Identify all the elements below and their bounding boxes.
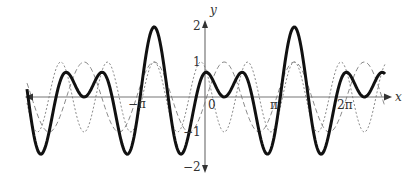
sum-curve <box>27 27 385 154</box>
y-tick-1: 1 <box>193 56 201 68</box>
y-tick-neg2: −2 <box>183 161 201 173</box>
x-axis-label: x <box>395 91 402 103</box>
x-tick-neg-pi: −π <box>128 98 146 110</box>
y-tick-neg1: −1 <box>183 126 201 138</box>
x-axis-arrow-icon <box>384 94 392 101</box>
x-tick-pi: π <box>270 99 278 111</box>
chart-plot-area <box>0 0 411 183</box>
y-axis-down-arrow-icon <box>202 165 208 173</box>
y-tick-2: 2 <box>193 20 201 32</box>
x-tick-0: 0 <box>208 99 216 111</box>
x-tick-2pi: 2π <box>337 99 353 111</box>
y-axis-up-arrow-icon <box>202 20 208 28</box>
y-axis-label: y <box>210 4 217 16</box>
